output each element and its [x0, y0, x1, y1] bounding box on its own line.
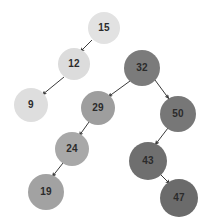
- tree-node-label: 15: [98, 23, 110, 33]
- tree-edge-n32-to-n50: [155, 80, 169, 99]
- tree-node-label: 32: [136, 63, 148, 73]
- tree-node-label: 12: [68, 59, 80, 69]
- tree-node-47[interactable]: 47: [160, 179, 198, 217]
- binary-tree-diagram: 1512932295024431947: [0, 0, 206, 221]
- tree-node-32[interactable]: 32: [124, 50, 160, 86]
- tree-node-12[interactable]: 12: [58, 48, 90, 80]
- tree-node-label: 9: [28, 100, 34, 110]
- tree-node-29[interactable]: 29: [81, 91, 115, 125]
- tree-edge-n50-to-n43: [155, 128, 168, 145]
- tree-node-15[interactable]: 15: [88, 12, 120, 44]
- tree-node-label: 29: [92, 103, 104, 113]
- tree-node-24[interactable]: 24: [55, 132, 89, 166]
- tree-node-label: 24: [66, 144, 78, 154]
- tree-node-label: 43: [142, 156, 154, 166]
- tree-node-label: 47: [173, 193, 185, 203]
- tree-node-19[interactable]: 19: [28, 174, 64, 210]
- tree-node-9[interactable]: 9: [14, 88, 48, 122]
- tree-node-label: 50: [172, 109, 184, 119]
- tree-node-label: 19: [40, 187, 52, 197]
- tree-edge-n32-to-n29: [108, 81, 130, 97]
- tree-node-43[interactable]: 43: [129, 142, 167, 180]
- tree-edge-n12-to-n9: [42, 77, 64, 95]
- tree-node-50[interactable]: 50: [160, 96, 196, 132]
